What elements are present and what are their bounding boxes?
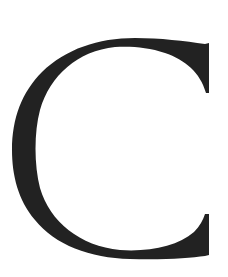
letter-c-icon: [0, 0, 228, 277]
letter-c-glyph: C: [0, 0, 228, 277]
